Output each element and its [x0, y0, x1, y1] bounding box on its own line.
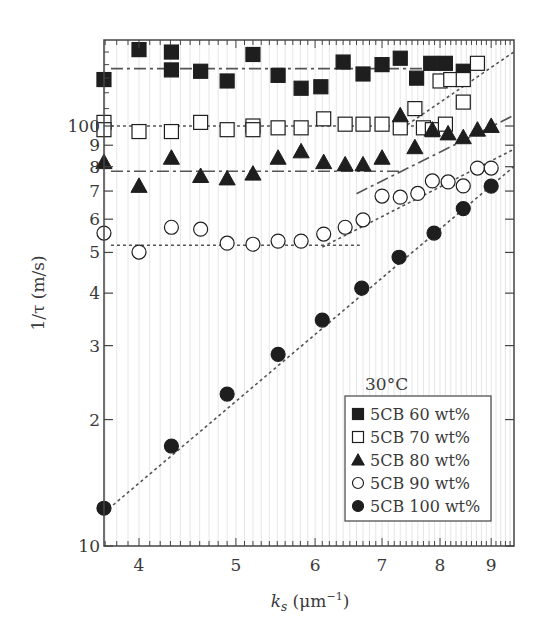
data-marker-square [194, 115, 208, 129]
data-marker-square [220, 123, 234, 137]
data-marker-square [164, 63, 178, 77]
data-marker-triangle [337, 156, 353, 170]
legend-item: 5CB 60 wt% [353, 405, 471, 424]
data-marker-square [246, 123, 260, 137]
data-marker-square [220, 74, 234, 88]
data-marker-circle [355, 281, 369, 295]
y-tick-label: 5 [89, 242, 100, 262]
legend-item: 5CB 100 wt% [353, 497, 481, 516]
data-marker-circle [315, 313, 329, 327]
data-marker-circle [375, 189, 389, 203]
y-tick-label: 2 [89, 410, 100, 430]
legend-label: 5CB 60 wt% [370, 405, 470, 424]
data-marker-square [393, 121, 407, 135]
data-marker-square [470, 56, 484, 70]
data-marker-circle [356, 213, 370, 227]
data-marker-square [356, 67, 370, 81]
legend-item: 5CB 80 wt% [352, 451, 470, 470]
data-marker-circle [271, 347, 285, 361]
data-marker-square [336, 55, 350, 69]
data-marker-square [164, 45, 178, 59]
data-marker-triangle [483, 118, 499, 132]
data-marker-circle [411, 186, 425, 200]
data-marker-circle [392, 250, 406, 264]
data-marker-square [444, 73, 458, 87]
data-marker-triangle [374, 150, 390, 164]
data-marker-circle [194, 222, 208, 236]
data-marker-square [132, 125, 146, 139]
data-marker-square [353, 409, 364, 420]
data-marker-circle [220, 236, 234, 250]
data-marker-square [271, 68, 285, 82]
y-tick-label: 4 [89, 283, 100, 303]
data-marker-square [353, 432, 364, 443]
data-marker-square [424, 56, 438, 70]
data-marker-circle [353, 501, 364, 512]
data-marker-circle [132, 245, 146, 259]
data-marker-circle [246, 237, 260, 251]
data-marker-square [317, 112, 331, 126]
x-tick-label: 7 [377, 555, 388, 575]
data-marker-circle [425, 174, 439, 188]
y-axis-title: 1/τ (m/s) [28, 255, 48, 330]
data-marker-square [456, 95, 470, 109]
data-marker-square [271, 121, 285, 135]
data-marker-circle [317, 227, 331, 241]
data-marker-square [393, 51, 407, 65]
data-marker-circle [441, 175, 455, 189]
x-axis-title: ks (μm−1) [271, 590, 350, 614]
legend-label: 5CB 80 wt% [370, 451, 470, 470]
series-5cb-90-wt- [97, 161, 498, 259]
data-marker-square [194, 64, 208, 78]
data-marker-circle [456, 179, 470, 193]
data-marker-circle [294, 234, 308, 248]
y-tick-label: 9 [89, 135, 100, 155]
data-marker-square [438, 56, 452, 70]
y-tick-label: 7 [89, 181, 100, 201]
y-tick-label: 100 [68, 116, 100, 136]
data-marker-triangle [219, 170, 235, 184]
chart-canvas: 456789 1023456789100 1/τ (m/s) ks (μm−1)… [0, 0, 539, 642]
x-tick-label: 5 [230, 555, 241, 575]
legend-item: 5CB 70 wt% [353, 428, 471, 447]
data-marker-circle [393, 190, 407, 204]
legend: 5CB 60 wt%5CB 70 wt%5CB 80 wt%5CB 90 wt%… [345, 396, 491, 521]
data-marker-circle [456, 202, 470, 216]
data-marker-circle [338, 220, 352, 234]
legend-label: 5CB 100 wt% [370, 497, 480, 516]
temperature-annotation: 30°C [365, 374, 408, 394]
data-marker-triangle [355, 156, 371, 170]
data-marker-square [294, 121, 308, 135]
data-marker-square [314, 80, 328, 94]
x-tick-label: 8 [435, 555, 446, 575]
data-marker-triangle [293, 143, 309, 157]
data-marker-circle [484, 161, 498, 175]
data-marker-circle [220, 387, 234, 401]
data-marker-triangle [245, 166, 261, 180]
data-marker-triangle [193, 168, 209, 182]
data-marker-triangle [407, 139, 423, 153]
legend-label: 5CB 90 wt% [370, 474, 470, 493]
data-marker-square [164, 125, 178, 139]
y-tick-label: 10 [78, 536, 100, 556]
x-tick-label: 4 [134, 555, 145, 575]
data-marker-square [408, 102, 422, 116]
data-marker-square [356, 117, 370, 131]
data-marker-square [410, 71, 424, 85]
data-marker-triangle [163, 150, 179, 164]
y-tick-label: 8 [89, 157, 100, 177]
data-marker-circle [271, 234, 285, 248]
data-marker-circle [353, 478, 364, 489]
data-marker-triangle [131, 178, 147, 192]
data-marker-triangle [270, 150, 286, 164]
y-tick-label: 3 [89, 336, 100, 356]
data-marker-circle [164, 220, 178, 234]
legend-label: 5CB 70 wt% [370, 428, 470, 447]
data-marker-circle [484, 179, 498, 193]
legend-item: 5CB 90 wt% [353, 474, 471, 493]
data-marker-circle [470, 161, 484, 175]
data-marker-circle [427, 226, 441, 240]
x-tick-label: 9 [486, 555, 497, 575]
data-marker-square [375, 117, 389, 131]
data-marker-square [294, 81, 308, 95]
